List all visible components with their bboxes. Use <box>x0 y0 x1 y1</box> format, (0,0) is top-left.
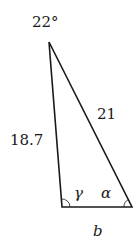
bottom-side-label: b <box>93 222 103 240</box>
right-side-label: 21 <box>97 105 116 123</box>
gamma-label: γ <box>74 184 83 202</box>
top-angle-label: 22° <box>32 13 59 31</box>
angle-arc-alpha <box>124 200 129 208</box>
triangle <box>49 42 132 207</box>
left-side-label: 18.7 <box>10 131 43 149</box>
triangle-diagram: 22° 18.7 21 γ α b <box>0 0 139 246</box>
alpha-label: α <box>101 184 111 202</box>
